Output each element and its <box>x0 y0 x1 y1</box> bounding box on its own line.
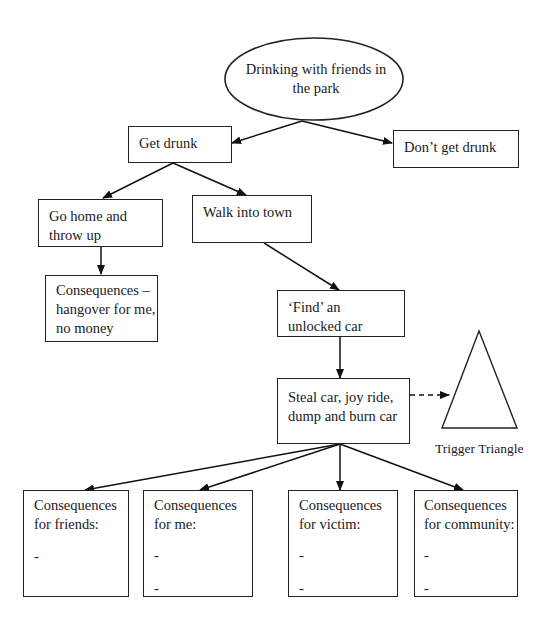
consequences-me-bullet-1: - <box>154 546 252 565</box>
consequences-community-box: Consequences for community: - - <box>414 490 518 597</box>
start-line-2: the park <box>238 79 394 98</box>
arrow-get-drunk-to-go-home <box>103 163 173 198</box>
consequences-victim-bullet-2: - <box>299 579 397 598</box>
node-go-home: Go home and throw up <box>38 199 163 247</box>
flowchart: Drinking with friends in the park Get dr… <box>0 0 553 632</box>
arrow-steal-to-friends <box>85 444 340 490</box>
trigger-triangle-icon <box>442 331 517 428</box>
node-dont-get-drunk-label: Don’t get drunk <box>404 138 518 157</box>
arrow-steal-to-me <box>200 444 340 490</box>
node-get-drunk-label: Get drunk <box>139 134 231 153</box>
consequences-community-line-2: for community: <box>424 515 517 534</box>
start-node-text: Drinking with friends in the park <box>238 60 394 98</box>
consequences-friends-line-1: Consequences <box>34 496 128 515</box>
node-consequences-home-line-2: hangover for me, <box>56 300 157 319</box>
node-find-car-line-1: ‘Find’ an <box>288 298 404 317</box>
node-steal-car-line-2: dump and burn car <box>288 407 409 426</box>
consequences-me-box: Consequences for me: - - <box>143 490 253 597</box>
node-get-drunk: Get drunk <box>128 126 232 163</box>
node-find-car-line-2: unlocked car <box>288 317 404 336</box>
arrow-start-to-dont-get-drunk <box>302 121 392 143</box>
consequences-me-line-2: for me: <box>154 515 252 534</box>
node-dont-get-drunk: Don’t get drunk <box>393 130 519 168</box>
trigger-triangle-label: Trigger Triangle <box>435 441 523 457</box>
consequences-friends-line-2: for friends: <box>34 515 128 534</box>
node-consequences-home-line-3: no money <box>56 319 157 338</box>
consequences-friends-bullet-1: - <box>34 547 128 566</box>
consequences-me-line-1: Consequences <box>154 496 252 515</box>
node-consequences-home: Consequences – hangover for me, no money <box>45 275 158 342</box>
consequences-friends-box: Consequences for friends: - <box>23 490 129 597</box>
node-steal-car: Steal car, joy ride, dump and burn car <box>277 378 410 444</box>
consequences-community-line-1: Consequences <box>424 496 517 515</box>
consequences-community-bullet-2: - <box>424 579 517 598</box>
consequences-victim-line-1: Consequences <box>299 496 397 515</box>
node-go-home-line-1: Go home and <box>49 207 162 226</box>
start-line-1: Drinking with friends in <box>238 60 394 79</box>
consequences-victim-bullet-1: - <box>299 546 397 565</box>
consequences-me-bullet-2: - <box>154 579 252 598</box>
arrow-get-drunk-to-walk-town <box>173 163 246 195</box>
consequences-victim-box: Consequences for victim: - - <box>288 490 398 597</box>
node-steal-car-line-1: Steal car, joy ride, <box>288 388 409 407</box>
consequences-community-bullet-1: - <box>424 546 517 565</box>
arrow-start-to-get-drunk <box>232 121 302 143</box>
node-walk-town: Walk into town <box>192 195 312 243</box>
arrow-walk-town-to-find-car <box>264 243 339 290</box>
node-walk-town-label: Walk into town <box>203 203 311 222</box>
node-find-car: ‘Find’ an unlocked car <box>277 290 405 337</box>
node-consequences-home-line-1: Consequences – <box>56 281 157 300</box>
consequences-victim-line-2: for victim: <box>299 515 397 534</box>
node-go-home-line-2: throw up <box>49 226 162 245</box>
